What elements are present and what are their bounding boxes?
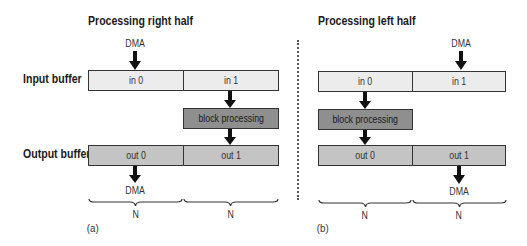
panel-b-n-label-0: N — [355, 210, 375, 221]
panel-a-input-cell-0: in 0 — [88, 70, 184, 91]
panel-b-from-processing-arrow-icon — [359, 130, 371, 146]
panel-b-input-cell-0: in 0 — [318, 71, 413, 92]
panel-b-to-processing-arrow-icon — [359, 92, 371, 110]
panel-b-block-processing: block processing — [318, 109, 413, 130]
panel-b-dma-out-label: DMA — [444, 186, 474, 197]
panel-a-block-processing: block processing — [183, 108, 279, 129]
panel-b-dma-in-label: DMA — [446, 38, 476, 49]
panel-b-n-label-1: N — [449, 210, 469, 221]
panel-a-title: Processing right half — [88, 14, 193, 28]
panel-a-dma-out-arrow-icon — [129, 166, 141, 184]
panel-a-dma-out-label: DMA — [120, 185, 150, 196]
panel-b-output-cell-0: out 0 — [318, 145, 413, 166]
panel-b-title: Processing left half — [318, 14, 415, 28]
panel-a-n-label-0: N — [126, 209, 146, 220]
panel-a-dma-in-label: DMA — [120, 38, 150, 49]
panel-a-output-cell-1: out 1 — [183, 145, 279, 166]
panel-b-dma-out-arrow-icon — [453, 166, 465, 185]
panel-b-output-cell-1: out 1 — [412, 145, 506, 166]
panel-a-output-cell-0: out 0 — [88, 145, 184, 166]
output-buffer-label: Output buffer — [23, 147, 90, 161]
panel-a-n-label-1: N — [221, 209, 241, 220]
input-buffer-label: Input buffer — [23, 72, 82, 86]
panel-a-dma-in-arrow-icon — [129, 51, 141, 71]
panel-b-caption: (b) — [316, 222, 329, 234]
panel-a-brace-icon — [88, 198, 280, 208]
panel-b-dma-in-arrow-icon — [455, 51, 467, 71]
panel-a-input-cell-1: in 1 — [183, 70, 279, 91]
panel-b-input-cell-1: in 1 — [412, 71, 506, 92]
panel-b-brace-icon — [318, 199, 508, 209]
panel-divider — [297, 40, 299, 200]
panel-a-to-processing-arrow-icon — [224, 91, 236, 109]
panel-a-from-processing-arrow-icon — [224, 129, 236, 146]
panel-a-caption: (a) — [86, 222, 99, 234]
